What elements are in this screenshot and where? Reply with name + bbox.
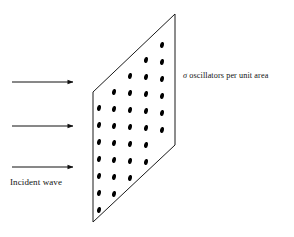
incident-wave-arrows bbox=[12, 82, 73, 167]
sigma-caption-text: oscillators per unit area bbox=[187, 71, 268, 80]
incident-wave-label: Incident wave bbox=[10, 177, 62, 188]
figure-svg bbox=[0, 0, 294, 237]
figure-canvas: σ oscillators per unit area Incident wav… bbox=[0, 0, 294, 237]
sigma-density-label: σ oscillators per unit area bbox=[183, 71, 268, 81]
